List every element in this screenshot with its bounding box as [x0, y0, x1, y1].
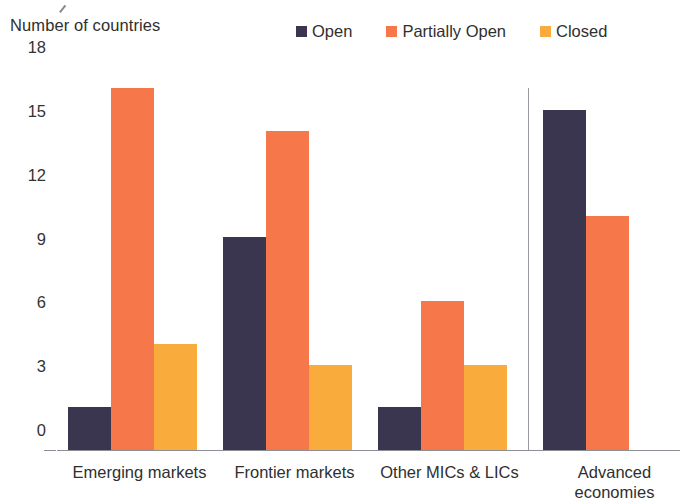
x-axis-category-label: Emerging markets — [68, 462, 211, 482]
legend-label: Closed — [556, 22, 607, 41]
bar-partially-open[interactable] — [111, 88, 154, 450]
bar-closed[interactable] — [309, 365, 352, 450]
bar-group-bars — [378, 67, 507, 450]
bar-partially-open[interactable] — [586, 216, 629, 450]
bar-partially-open[interactable] — [421, 301, 464, 450]
y-axis-tick-label: 18 — [28, 38, 46, 57]
legend-label: Open — [312, 22, 352, 41]
bar-open[interactable] — [378, 407, 421, 450]
bar-group: Advanced economies — [543, 67, 686, 450]
bar-open[interactable] — [543, 110, 586, 450]
y-axis-tick-label: 9 — [37, 230, 46, 249]
legend-swatch-icon — [386, 26, 397, 37]
legend-swatch-icon — [540, 26, 551, 37]
bar-open[interactable] — [223, 237, 266, 450]
bar-group: Emerging markets — [68, 67, 211, 450]
x-axis-category-label: Advanced economies — [543, 462, 686, 498]
bar-group-bars — [223, 67, 352, 450]
legend-swatch-icon — [296, 26, 307, 37]
bar-group: Frontier markets — [223, 67, 366, 450]
x-axis-category-label: Other MICs & LICs — [378, 462, 521, 482]
legend-item-closed[interactable]: Closed — [540, 22, 607, 41]
legend-label: Partially Open — [402, 22, 506, 41]
legend-item-partially-open[interactable]: Partially Open — [386, 22, 506, 41]
x-axis-category-label: Frontier markets — [223, 462, 366, 482]
y-axis-tick-label: 0 — [37, 421, 46, 440]
bar-open[interactable] — [68, 407, 111, 450]
bar-group-bars — [68, 67, 197, 450]
y-axis-tick-label: 15 — [28, 102, 46, 121]
bar-closed[interactable] — [464, 365, 507, 450]
y-axis-tick-label: 6 — [37, 293, 46, 312]
bar-group: Other MICs & LICs — [378, 67, 521, 450]
chart-legend: OpenPartially OpenClosed — [296, 20, 607, 42]
bar-chart: Number of countries OpenPartially OpenCl… — [0, 0, 691, 498]
group-separator — [528, 88, 529, 450]
y-axis-title: Number of countries — [10, 16, 160, 35]
y-axis-tick-label: 12 — [28, 166, 46, 185]
legend-item-open[interactable]: Open — [296, 22, 352, 41]
bar-closed[interactable] — [154, 344, 197, 450]
zero-axis-tick — [44, 450, 56, 451]
y-axis-tick-label: 3 — [37, 357, 46, 376]
bar-partially-open[interactable] — [266, 131, 309, 450]
plot-area: 1815129630Emerging marketsFrontier marke… — [57, 67, 680, 450]
bar-group-bars — [543, 67, 672, 450]
stray-mark — [59, 5, 66, 13]
